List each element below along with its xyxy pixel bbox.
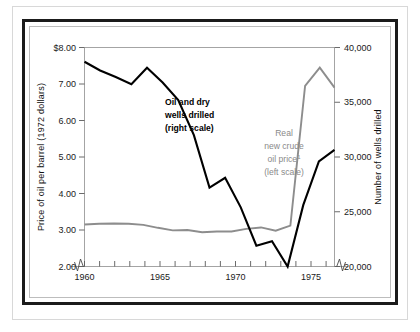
left-tick-label-6: 6.00 [58,116,76,126]
wells-annotation: Oil and dry wells drilled (right scale) [164,97,214,133]
price-annotation-line-1: Real [275,128,293,138]
left-axis-labels: $8.00 7.00 6.00 5.00 4.00 3.00 2.00 [53,43,76,272]
wells-annotation-line-3: (right scale) [165,123,214,133]
plot-frame [71,48,349,267]
left-axis-ticks [79,48,85,267]
x-axis-labels: 1960 1965 1970 1975 [74,272,321,282]
figure-root: $8.00 7.00 6.00 5.00 4.00 3.00 2.00 40,0… [0,0,420,332]
right-axis-title: Number of wells drilled [373,109,383,205]
left-tick-label-7: 7.00 [58,79,76,89]
right-axis-ticks [335,48,341,267]
left-axis-title: Price of oil per barrel (1972 dollars) [36,83,46,231]
left-tick-label-8: $8.00 [53,43,76,53]
right-tick-label-40000: 40,000 [344,43,372,53]
right-axis-labels: 40,000 35,000 30,000 25,000 20,000 [344,43,372,272]
footnote-marker: 1 [297,154,301,160]
axis-break-marks [75,259,346,271]
x-tick-label-1965: 1965 [150,272,170,282]
right-tick-label-20000: 20,000 [344,262,372,272]
chart-area: $8.00 7.00 6.00 5.00 4.00 3.00 2.00 40,0… [29,26,391,298]
price-annotation-line-3-text: oil price [268,154,298,164]
right-tick-label-35000: 35,000 [344,97,372,107]
price-annotation-line-2: new crude [264,141,304,151]
left-tick-label-4: 4.00 [58,189,76,199]
left-tick-label-5: 5.00 [58,152,76,162]
left-tick-label-3: 3.00 [58,225,76,235]
right-tick-label-30000: 30,000 [344,152,372,162]
x-tick-label-1975: 1975 [301,272,321,282]
right-tick-label-25000: 25,000 [344,207,372,217]
x-tick-label-1970: 1970 [225,272,245,282]
wells-annotation-line-1: Oil and dry [165,97,210,107]
price-annotation-line-4: (left scale) [264,167,304,177]
wells-annotation-line-2: wells drilled [164,110,214,120]
x-tick-label-1960: 1960 [74,272,94,282]
left-tick-label-2: 2.00 [58,262,76,272]
line-chart: $8.00 7.00 6.00 5.00 4.00 3.00 2.00 40,0… [29,26,391,298]
price-annotation-line-3: oil price1 [268,154,302,164]
